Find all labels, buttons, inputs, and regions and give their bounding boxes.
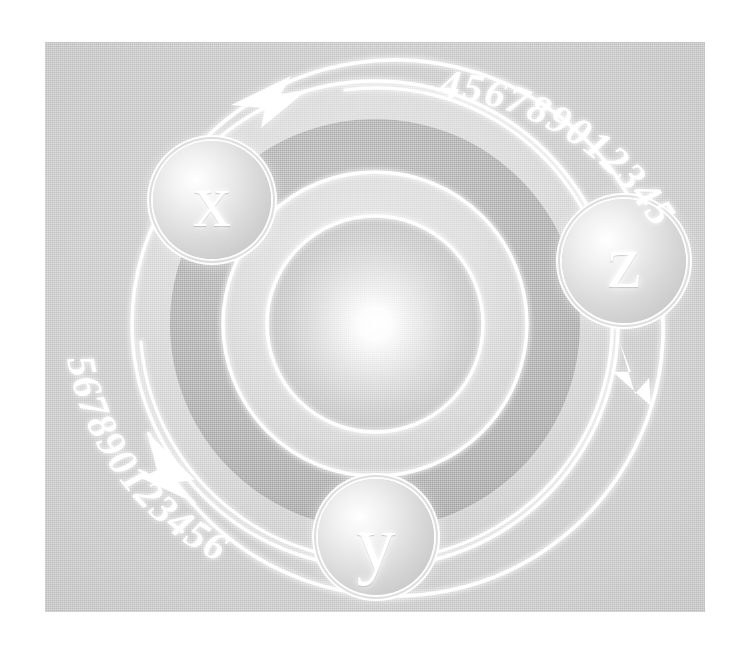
badge-y[interactable]: y [318,479,434,595]
artwork-canvas: x z y 456789012345 [0,0,748,657]
badge-x-label: x [193,162,231,238]
gray-panel: x z y [45,42,705,612]
badge-y-label: y [357,504,396,582]
badge-z-label: z [607,223,641,299]
badge-z[interactable]: z [562,199,686,323]
badge-x[interactable]: x [153,141,271,259]
